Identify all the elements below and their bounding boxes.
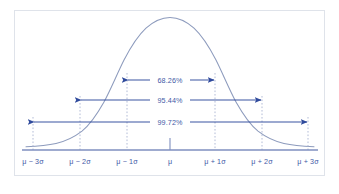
interval-99-group: 99.72% bbox=[34, 118, 307, 127]
axis-label-plus-3-sigma: μ + 3σ bbox=[297, 157, 319, 166]
axis-label-plus-2-sigma: μ + 2σ bbox=[251, 157, 273, 166]
interval-68-label: 68.26% bbox=[158, 76, 183, 85]
axis-label-plus-1-sigma: μ + 1σ bbox=[204, 157, 226, 166]
axis-label-minus-2-sigma: μ − 2σ bbox=[69, 157, 91, 166]
axis-label-mean: μ bbox=[168, 157, 172, 166]
axis-label-minus-3-sigma: μ − 3σ bbox=[22, 157, 44, 166]
interval-68-group: 68.26% bbox=[128, 76, 214, 85]
interval-95-group: 95.44% bbox=[81, 96, 261, 105]
axis-label-minus-1-sigma: μ − 1σ bbox=[116, 157, 138, 166]
interval-95-label: 95.44% bbox=[158, 96, 183, 105]
axis-tick-labels-group: μ − 3σ μ − 2σ μ − 1σ μ μ + 1σ μ + 2σ μ +… bbox=[22, 157, 319, 166]
interval-99-label: 99.72% bbox=[158, 118, 183, 127]
normal-curve-chart: 68.26% 95.44% 99.72% μ − 3σ μ − 2σ μ − 1… bbox=[0, 0, 339, 194]
normal-distribution-figure: 68.26% 95.44% 99.72% μ − 3σ μ − 2σ μ − 1… bbox=[0, 0, 339, 194]
